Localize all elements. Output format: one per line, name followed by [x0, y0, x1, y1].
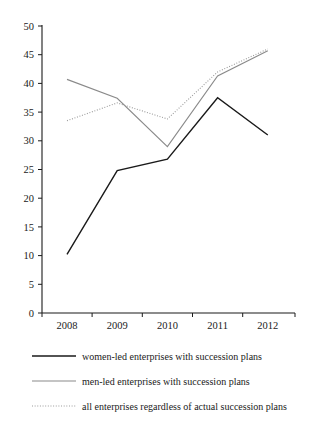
- x-axis-tick-label: 2010: [157, 320, 178, 331]
- y-axis-tick-label: 5: [29, 279, 34, 290]
- y-axis-tick-label: 35: [24, 107, 35, 118]
- y-axis-tick-label: 40: [24, 78, 35, 89]
- y-axis-tick-label: 25: [24, 164, 35, 175]
- y-axis-tick-label: 10: [24, 250, 35, 261]
- y-axis-tick-label: 30: [24, 135, 35, 146]
- x-axis-tick-label: 2008: [57, 320, 78, 331]
- legend-label-1: men-led enterprises with succession plan…: [82, 376, 250, 387]
- y-axis-tick-label: 20: [24, 193, 35, 204]
- chart-background: [0, 0, 329, 428]
- y-axis-tick-label: 45: [24, 49, 35, 60]
- y-axis-tick-label: 50: [24, 21, 35, 32]
- y-axis-tick-label: 15: [24, 222, 35, 233]
- legend-label-0: women-led enterprises with succession pl…: [82, 351, 262, 362]
- chart-canvas: 05101520253035404550 2008200920102011201…: [0, 0, 329, 428]
- legend-label-2: all enterprises regardless of actual suc…: [82, 401, 287, 412]
- y-axis-tick-label: 0: [29, 308, 34, 319]
- x-axis-tick-label: 2011: [207, 320, 228, 331]
- x-axis-tick-label: 2012: [257, 320, 278, 331]
- x-axis-tick-label: 2009: [107, 320, 128, 331]
- line-chart-figure: 05101520253035404550 2008200920102011201…: [0, 0, 329, 428]
